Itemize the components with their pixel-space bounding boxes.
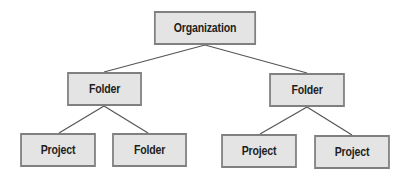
node-project-2: Project xyxy=(221,134,297,168)
node-folder-left: Folder xyxy=(67,72,142,106)
node-label: Project xyxy=(335,145,370,159)
hierarchy-diagram: Organization Folder Folder Project Folde… xyxy=(0,0,409,177)
edge-folder-right-project-3 xyxy=(307,107,352,135)
node-label: Project xyxy=(41,143,76,157)
edge-folder-right-project-2 xyxy=(260,107,307,134)
node-label: Folder xyxy=(89,82,120,96)
node-label: Project xyxy=(242,144,277,158)
node-folder-sub: Folder xyxy=(112,133,187,167)
edge-folder-left-folder-sub xyxy=(104,106,148,133)
edge-org-folder-left xyxy=(104,45,205,72)
node-label: Organization xyxy=(174,21,236,35)
edge-folder-left-project-1 xyxy=(59,106,104,133)
node-folder-right: Folder xyxy=(269,73,345,107)
node-label: Folder xyxy=(134,143,165,157)
node-label: Folder xyxy=(291,83,322,97)
node-project-3: Project xyxy=(314,135,390,169)
node-project-1: Project xyxy=(20,133,96,167)
node-organization: Organization xyxy=(154,11,256,45)
edge-org-folder-right xyxy=(205,45,307,73)
